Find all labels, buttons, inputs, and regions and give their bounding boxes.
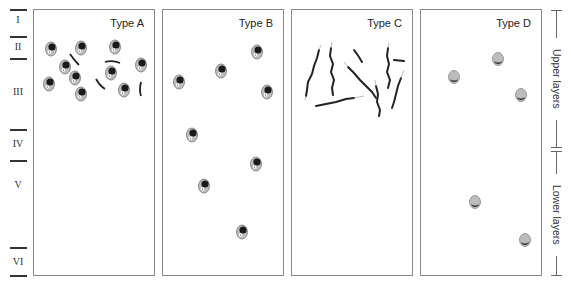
- lower-layers-label: Lower layers: [549, 174, 565, 256]
- panel-type-a: Type A: [33, 9, 155, 276]
- layer-boundary: [10, 247, 27, 249]
- layer-boundary: [10, 9, 27, 11]
- layer-label-1: I: [4, 14, 32, 25]
- type-a-cells-illustration: [34, 10, 156, 277]
- layer-label-6: VI: [4, 256, 32, 267]
- figure-caption-faded: [200, 278, 380, 284]
- layer-boundary: [10, 160, 27, 162]
- panel-type-d: Type D: [420, 9, 542, 276]
- type-c-fibers-illustration: [292, 10, 414, 277]
- layer-boundary: [10, 275, 27, 277]
- layer-boundary: [10, 58, 27, 60]
- panel-type-b: Type B: [162, 9, 284, 276]
- bracket-cap: [551, 275, 562, 276]
- layer-boundary: [10, 36, 27, 38]
- type-d-cells-illustration: [421, 10, 543, 277]
- layer-label-5: V: [4, 179, 32, 190]
- bracket-cap: [551, 147, 562, 148]
- type-b-cells-illustration: [163, 10, 285, 277]
- upper-layers-label: Upper layers: [549, 38, 565, 120]
- panel-type-c: Type C: [291, 9, 413, 276]
- layer-label-4: IV: [4, 138, 32, 149]
- layer-label-3: III: [4, 86, 32, 97]
- layer-boundary: [10, 129, 27, 131]
- layer-label-2: II: [4, 41, 32, 52]
